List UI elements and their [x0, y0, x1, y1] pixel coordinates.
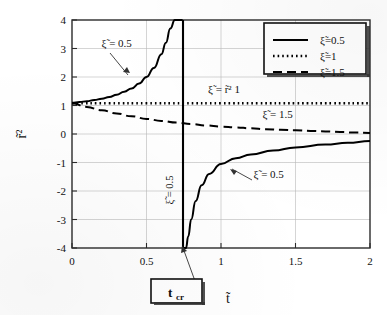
legend-shadow-right	[367, 26, 370, 77]
leader-tcr	[183, 248, 195, 281]
legend[interactable]: ξ̃=0.5ξ̃=1ξ̃=1.5	[264, 23, 370, 79]
y-tick-label: -4	[57, 242, 67, 254]
legend-label-0: ξ̃=0.5	[320, 34, 345, 47]
t-cr-sublabel: cr	[176, 292, 184, 302]
annotation-upper-xi-05: ξ̃ = 0.5	[102, 37, 133, 50]
y-tick-label: -2	[57, 185, 66, 197]
series-line-0.5	[72, 20, 183, 103]
x-tick-label: 1	[218, 255, 224, 267]
y-tick-label: 1	[61, 100, 67, 112]
chart-canvas: 43210-1-2-3-4 00.511.52 r̃² t̃ ξ̃ = 0.5 …	[0, 0, 387, 315]
x-axis-tick-labels: 00.511.52	[69, 255, 373, 267]
legend-box	[264, 23, 366, 74]
y-tick-label: 3	[61, 43, 67, 55]
x-tick-label: 1.5	[289, 255, 303, 267]
annotation-xi-r2-1: ξ̃ = r̃² 1	[208, 83, 240, 96]
t-cr-box-shadow-right	[202, 282, 205, 305]
y-axis-title: r̃²	[14, 130, 29, 139]
x-axis-title: t̃	[226, 291, 231, 306]
series-line-0.5	[184, 141, 371, 248]
t-cr-box-shadow-bottom	[154, 302, 205, 305]
t-cr-label: t	[168, 285, 173, 300]
y-tick-label: -3	[57, 214, 67, 226]
annotation-xi-15: ξ̃ = 1.5	[262, 108, 293, 121]
y-tick-label: -1	[57, 157, 66, 169]
x-tick-label: 2	[367, 255, 373, 267]
annotation-lower-xi-05: ξ̃ = 0.5	[254, 168, 285, 181]
x-tick-label: 0.5	[140, 255, 154, 267]
asymptote-label: ξ̃ = 0.5	[164, 176, 176, 205]
y-tick-label: 4	[61, 14, 67, 26]
t-cr-callout[interactable]: t cr	[151, 279, 205, 305]
x-tick-label: 0	[69, 255, 75, 267]
legend-label-2: ξ̃=1.5	[320, 66, 345, 79]
y-tick-label: 2	[61, 71, 67, 83]
legend-shadow-bottom	[267, 74, 370, 77]
y-axis-tick-labels: 43210-1-2-3-4	[57, 14, 67, 254]
legend-label-1: ξ̃=1	[320, 50, 337, 63]
y-tick-label: 0	[61, 128, 67, 140]
